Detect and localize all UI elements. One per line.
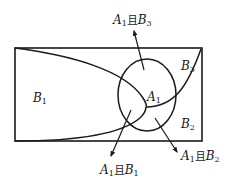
arrow-a1-b3 bbox=[134, 31, 144, 70]
label-letter: B bbox=[181, 59, 190, 73]
callout-a: A bbox=[181, 149, 190, 163]
callout-conjunction: 且 bbox=[127, 14, 138, 27]
label-letter: B bbox=[33, 91, 42, 105]
arrow-a1-b1 bbox=[111, 110, 131, 156]
region-label-b3: B3 bbox=[181, 60, 195, 74]
callout-a1-and-b1: A1且B1 bbox=[100, 164, 139, 178]
callout-b-sub: 2 bbox=[215, 155, 220, 164]
callout-b-sub: 1 bbox=[134, 169, 139, 178]
callout-a1-and-b2: A1且B2 bbox=[181, 150, 220, 164]
callout-conjunction: 且 bbox=[114, 164, 125, 177]
callout-b-sub: 3 bbox=[147, 19, 152, 28]
label-subscript: 3 bbox=[190, 65, 195, 74]
callout-b: B bbox=[138, 13, 147, 27]
region-label-a1: A1 bbox=[147, 91, 161, 105]
callout-conjunction: 且 bbox=[195, 150, 206, 163]
label-subscript: 1 bbox=[42, 97, 47, 106]
label-subscript: 2 bbox=[190, 123, 195, 132]
callout-a: A bbox=[113, 13, 122, 27]
label-subscript: 1 bbox=[156, 96, 161, 105]
region-label-b2: B2 bbox=[181, 118, 195, 132]
callout-b: B bbox=[206, 149, 215, 163]
callout-a1-and-b3: A1且B3 bbox=[113, 14, 152, 28]
callout-a: A bbox=[100, 163, 109, 177]
label-letter: A bbox=[147, 90, 156, 104]
region-label-b1: B1 bbox=[33, 92, 47, 106]
callout-b: B bbox=[125, 163, 134, 177]
partition-curve-lower bbox=[15, 107, 146, 141]
label-letter: B bbox=[181, 117, 190, 131]
